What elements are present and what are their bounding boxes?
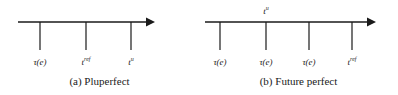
tick-label-base: τ(e) [259,57,272,67]
arrow-head-icon [367,18,376,27]
tick-label-base: τ(e) [302,57,315,67]
tick-label-superscript: ref [350,56,356,62]
tick-label-base: τ(e) [213,57,226,67]
tick-label-t-ref: tref [82,56,91,67]
tick-label-t-u: tu [128,56,134,67]
tick-label-tau-of-e: τ(e) [259,56,272,67]
panel-future-perfect: tu τ(e) τ(e) τ(e) tref (b) Future perfec… [199,0,398,95]
tick-label-tau-of-e: τ(e) [33,56,46,67]
tick-label-t-ref: tref [348,56,357,67]
panel-b-caption: (b) Future perfect [199,76,398,87]
panel-a-caption: (a) Pluperfect [0,76,199,87]
tick-label-tau-of-e: τ(e) [213,56,226,67]
timeline-figure: τ(e) tref tu (a) Pluperfect tu τ(e) [0,0,398,95]
tick-label-superscript: ref [84,56,90,62]
arrow-head-icon [146,18,155,27]
above-label-superscript: u [266,5,269,11]
panel-pluperfect: τ(e) tref tu (a) Pluperfect [0,0,199,95]
tick-label-tau-of-e: τ(e) [302,56,315,67]
tick-label-base: τ(e) [33,57,46,67]
tick-label-superscript: u [131,56,134,62]
above-axis-label-t-u: tu [263,5,269,16]
